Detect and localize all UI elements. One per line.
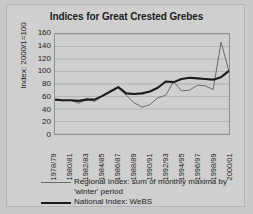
gridlines xyxy=(55,34,229,134)
chart-title: Indices for Great Crested Grebes xyxy=(7,11,246,22)
y-tick-label: 80 xyxy=(42,80,51,88)
y-tick-label: 120 xyxy=(38,55,51,63)
x-tick-label: 1998/99 xyxy=(210,153,218,180)
x-tick-label: 1988/89 xyxy=(130,153,138,180)
y-tick-label: 0 xyxy=(47,131,51,139)
chart-frame: Indices for Great Crested Grebes Index: … xyxy=(6,4,245,207)
y-tick-label: 60 xyxy=(42,93,51,101)
x-tick-label: 1978/79 xyxy=(50,153,58,180)
series-line xyxy=(55,42,229,107)
x-tick-label: 1984/85 xyxy=(98,153,106,180)
legend-swatch-regional-icon xyxy=(41,182,71,183)
data-series xyxy=(55,42,229,107)
chart-svg xyxy=(55,34,229,134)
x-tick-label: 1986/87 xyxy=(114,153,122,180)
x-tick-label: 1982/83 xyxy=(82,153,90,180)
x-tick-label: 1994/95 xyxy=(178,153,186,180)
legend-item-regional: Regional Index: sum of monthly maxima by… xyxy=(41,177,241,197)
y-tick-label: 40 xyxy=(42,106,51,114)
legend-item-national: National Index: WeBS xyxy=(41,197,241,207)
chart-legend: Regional Index: sum of monthly maxima by… xyxy=(41,177,241,207)
y-axis-ticks: 160140120100806040200 xyxy=(29,31,51,137)
y-tick-label: 20 xyxy=(42,118,51,126)
legend-label-regional: Regional Index: sum of monthly maxima by xyxy=(74,177,241,187)
y-tick-label: 140 xyxy=(38,42,51,50)
legend-label-regional-cont: 'winter' period xyxy=(74,187,241,197)
plot-area xyxy=(54,33,230,135)
legend-label-national: National Index: WeBS xyxy=(74,197,241,207)
legend-swatch-national-icon xyxy=(41,202,71,204)
x-tick-label: 1980/81 xyxy=(66,153,74,180)
x-tick-label: 1992/93 xyxy=(162,153,170,180)
x-tick-label: 1996/97 xyxy=(194,153,202,180)
y-axis-label: Index: 2000/1=100 xyxy=(19,6,28,106)
x-axis-ticks: 1978/791980/811982/831984/851986/871988/… xyxy=(54,136,230,180)
y-tick-label: 100 xyxy=(38,67,51,75)
x-tick-label: 1990/91 xyxy=(146,153,154,180)
y-tick-label: 160 xyxy=(38,29,51,37)
x-tick-label: 2000/01 xyxy=(226,153,234,180)
